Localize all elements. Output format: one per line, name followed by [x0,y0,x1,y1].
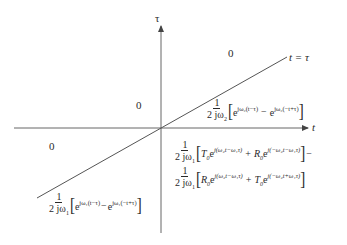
region-zero-bottom-left: 0 [49,141,55,152]
fraction: 1 2 jω1 [175,139,195,167]
region-zero-top-right: 0 [228,48,234,59]
fraction: 1 2 jω1 [175,165,195,193]
diagonal-line-label: t = τ [289,52,309,63]
formula-upper-wedge: 1 2 jω2 [ ejω₂(t−τ) − ejω₂(−t+τ) ] [207,97,304,125]
fraction: 1 2 jω1 [49,191,69,219]
formula-lower-right-line1: 1 2 jω1 [ T0ej(ω₂t−ω₁τ) + R0ej(−ω₂t−ω₁τ)… [175,139,315,167]
tau-axis-label: τ [155,13,159,24]
formula-lower-left: 1 2 jω1 [ ejω₁(t−τ) − ejω₁(−t+τ) ] [49,191,142,219]
formula-lower-right-line2: 1 2 jω1 [ R0ej(ω₂t−ω₁τ) + T0ej(−ω₂t+ω₁τ)… [175,165,305,193]
t-axis-label: t [312,122,315,133]
fraction: 1 2 jω2 [207,97,227,125]
region-zero-top-left: 0 [136,100,142,111]
